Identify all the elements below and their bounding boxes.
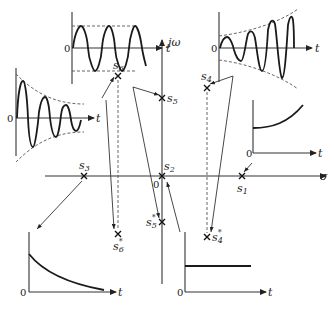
svg-text:0: 0	[246, 148, 252, 159]
sigma-axis-label: σ	[320, 170, 328, 183]
plot-exponential-growth: 0 t	[246, 100, 323, 160]
svg-text:s5: s5	[167, 92, 178, 106]
origin-label: 0	[153, 179, 159, 190]
svg-text:s6*: s6*	[113, 237, 124, 254]
pole-s4-conjugate: s4*	[204, 228, 223, 245]
svg-text:0: 0	[177, 287, 183, 298]
pole-x-icon	[204, 234, 210, 240]
pole-x-icon	[204, 85, 210, 91]
svg-text:0: 0	[20, 287, 26, 298]
svg-text:t: t	[268, 286, 273, 299]
plot-sustained-oscillation: 0 t	[64, 12, 171, 84]
pole-x-icon	[115, 73, 121, 79]
svg-text:t: t	[118, 286, 123, 299]
plot-constant-step: 0 t	[177, 232, 273, 299]
plot-growing-oscillation: 0 t	[211, 9, 320, 89]
svg-text:t: t	[315, 42, 320, 55]
svg-text:0: 0	[64, 43, 70, 54]
plot-exponential-decay: 0 t	[20, 232, 123, 299]
pole-s6-conjugate: s6*	[113, 231, 124, 254]
svg-text:0: 0	[7, 113, 13, 124]
svg-text:0: 0	[211, 43, 217, 54]
svg-text:s3: s3	[79, 159, 90, 173]
svg-text:s1: s1	[237, 182, 248, 196]
exponential-growth-curve	[253, 105, 303, 128]
svg-text:t: t	[96, 112, 101, 125]
s-plane-diagram: jω σ 0 s1 s2 s3 s4 s4*	[0, 0, 334, 311]
plot-decaying-oscillation: 0 t	[7, 68, 101, 162]
svg-text:s5*: s5*	[146, 213, 157, 230]
pointer-arrows	[37, 76, 252, 232]
poles: s1 s2 s3 s4 s4* s5 s5*	[79, 59, 248, 254]
svg-text:t: t	[166, 42, 171, 55]
svg-text:s2: s2	[164, 160, 175, 174]
pole-s4: s4	[201, 70, 212, 91]
svg-text:s4: s4	[201, 70, 212, 84]
svg-text:t: t	[318, 147, 323, 160]
exponential-decay-curve	[29, 254, 104, 290]
svg-text:s4*: s4*	[212, 228, 223, 245]
s-plane-axes: jω σ 0	[45, 36, 328, 284]
growing-oscillation-curve	[220, 17, 294, 78]
decaying-oscillation-curve	[17, 81, 81, 147]
